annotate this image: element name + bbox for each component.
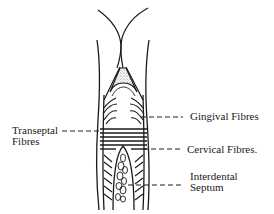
epithelium-wedge bbox=[104, 67, 143, 100]
papilla-outline bbox=[98, 8, 148, 68]
label-interdental-line2: Septum bbox=[190, 182, 224, 193]
label-gingival-fibres: Gingival Fibres bbox=[190, 111, 259, 122]
label-transeptal-line2: Fibres bbox=[12, 136, 40, 147]
gingival-fibres bbox=[103, 98, 144, 124]
label-cervical-fibres: Cervical Fibres. bbox=[187, 144, 257, 155]
